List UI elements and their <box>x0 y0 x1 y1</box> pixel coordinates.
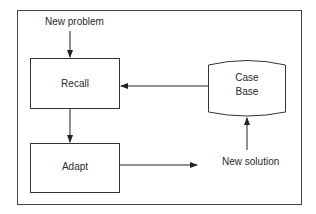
case-base-label-line2: Base <box>208 86 286 98</box>
case-base-label-line1: Case <box>208 72 286 84</box>
recall-label: Recall <box>30 78 120 90</box>
diagram-canvas <box>0 0 316 214</box>
new-solution-label: New solution <box>222 156 279 168</box>
adapt-label: Adapt <box>30 161 120 173</box>
new-problem-label: New problem <box>45 16 104 28</box>
